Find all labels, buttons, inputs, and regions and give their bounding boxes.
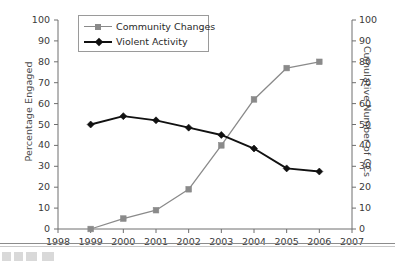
data-point-marker (218, 131, 225, 138)
data-point-marker (317, 59, 323, 65)
footer-artifact (42, 252, 54, 261)
footer-artifact (14, 252, 23, 261)
data-point-marker (88, 226, 94, 232)
data-point-marker (153, 207, 159, 213)
data-point-marker (251, 97, 257, 103)
legend-swatch-diamond-icon (84, 36, 112, 48)
legend-label-violent-activity: Violent Activity (116, 37, 188, 47)
series-line-0 (91, 62, 320, 229)
footer-divider-secondary (0, 246, 395, 247)
legend-label-community-changes: Community Changes (116, 22, 215, 32)
data-point-marker (219, 143, 225, 149)
footer-artifact (2, 252, 11, 261)
footer-artifact (26, 252, 37, 261)
legend-swatch-square-icon (84, 21, 112, 33)
chart-figure: Percentage Engaged Cumulative Number of … (0, 0, 395, 261)
data-point-marker (185, 124, 192, 131)
data-point-marker (316, 168, 323, 175)
legend-item-community-changes: Community Changes (84, 19, 215, 34)
data-point-marker (120, 113, 127, 120)
data-point-marker (153, 117, 160, 124)
series-line-1 (91, 116, 320, 171)
data-point-marker (87, 121, 94, 128)
legend-item-violent-activity: Violent Activity (84, 34, 188, 49)
data-point-marker (121, 216, 127, 222)
chart-legend: Community Changes Violent Activity (78, 15, 209, 52)
data-point-marker (186, 186, 192, 192)
data-point-marker (284, 65, 290, 71)
footer-divider (0, 243, 395, 244)
